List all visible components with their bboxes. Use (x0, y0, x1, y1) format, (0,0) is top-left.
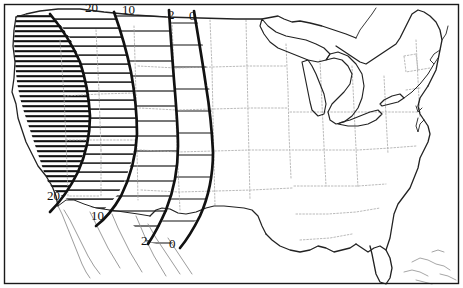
label-10-bottom: 10 (91, 209, 104, 222)
label-0-top: 0 (189, 9, 196, 22)
lake-huron (326, 52, 364, 124)
label-0-bottom: 0 (169, 237, 176, 250)
map-canvas (0, 0, 463, 288)
northern-border-east (356, 8, 376, 38)
st-lawrence-river (404, 64, 434, 98)
label-2-top: 2 (168, 8, 175, 21)
gulf-coastline (266, 234, 356, 252)
chesapeake-bay (416, 118, 424, 132)
label-2-bottom: 2 (141, 234, 148, 247)
atlantic-coastline-south (386, 86, 430, 250)
label-20-top: 20 (85, 1, 98, 14)
label-10-top: 10 (122, 3, 135, 16)
contour-map-figure: 20 10 2 0 20 10 2 0 (0, 0, 463, 288)
caribbean-islands (404, 250, 456, 284)
label-20-bottom: 20 (47, 189, 60, 202)
maine-coast-detail (442, 26, 448, 40)
lake-ontario (380, 94, 404, 106)
